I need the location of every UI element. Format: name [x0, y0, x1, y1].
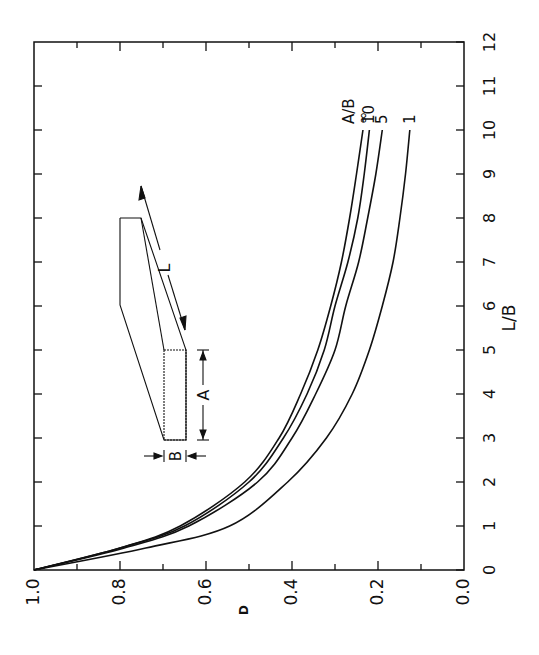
x-tick-label: 5 — [480, 345, 499, 355]
dim-label-a: A — [194, 389, 213, 400]
data-curves — [34, 130, 410, 570]
y-tick-label: 0.8 — [109, 578, 129, 605]
plot-frame — [34, 42, 464, 570]
x-tick-label: 10 — [480, 120, 499, 140]
x-tick-label: 8 — [480, 213, 499, 223]
x-tick-label: 7 — [480, 257, 499, 267]
x-tick-label: 9 — [480, 169, 499, 179]
x-tick-label: 2 — [480, 477, 499, 487]
x-tick-label: 12 — [480, 32, 499, 52]
y-tick-label: 1.0 — [23, 578, 43, 605]
x-tick-label: 3 — [480, 433, 499, 443]
y-tick-label: 0.0 — [453, 578, 473, 605]
x-axis-title: L/B — [499, 305, 519, 332]
x-tick-label: 0 — [480, 565, 499, 575]
x-tick-label: 6 — [480, 301, 499, 311]
series-label: 1 — [401, 114, 419, 124]
inset-bar-diagram — [120, 186, 209, 462]
axis-tick-labels: 01234567891011121.00.80.60.40.20.0 — [23, 32, 499, 606]
dim-label-l: L — [155, 263, 174, 272]
series-labels: A/B∞1051 — [340, 98, 418, 124]
x-tick-label: 4 — [480, 389, 499, 399]
x-tick-label: 1 — [480, 521, 499, 531]
series-label: 5 — [373, 114, 391, 124]
axis-ticks — [34, 42, 464, 570]
y-axis-title: D — [237, 605, 251, 615]
y-tick-label: 0.4 — [281, 578, 301, 605]
y-tick-label: 0.6 — [195, 578, 215, 605]
dim-label-b: B — [167, 451, 185, 461]
x-tick-label: 11 — [480, 76, 499, 96]
y-tick-label: 0.2 — [367, 578, 387, 605]
chart: 01234567891011121.00.80.60.40.20.0 A/B∞1… — [0, 0, 539, 655]
